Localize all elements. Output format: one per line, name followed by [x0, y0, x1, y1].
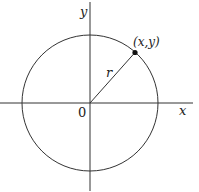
- radius-label: r: [106, 65, 113, 80]
- radius-line: [90, 53, 135, 104]
- circle-diagram: y x 0 r (x,y): [0, 0, 199, 192]
- x-axis-label: x: [179, 103, 187, 118]
- point-label: (x,y): [133, 35, 160, 49]
- y-axis-label: y: [79, 4, 88, 19]
- origin-label: 0: [78, 105, 86, 120]
- point-marker: [132, 50, 137, 55]
